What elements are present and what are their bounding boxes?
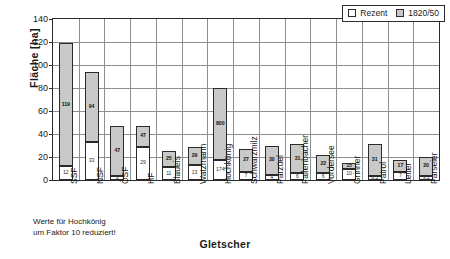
- plot-area: 0204060801001201401211933942472947112513…: [52, 18, 440, 181]
- plot-inner: 0204060801001201401211933942472947112513…: [53, 19, 439, 180]
- legend-item-historic: 1820/50: [396, 8, 439, 18]
- y-tick-label: 100: [14, 60, 53, 70]
- y-tick-mark: [49, 180, 53, 181]
- bar-group: 717: [388, 19, 414, 180]
- bar-segment-historic: 94: [85, 72, 99, 142]
- bar-value-label: 94: [86, 104, 98, 109]
- y-tick-label: 40: [14, 129, 53, 139]
- bar-group: 2947: [130, 19, 156, 180]
- bar-value-label: 119: [60, 102, 72, 107]
- y-tick-label: 140: [14, 14, 53, 24]
- bar-group: 247: [104, 19, 130, 180]
- bar-value-label: 800: [214, 121, 226, 126]
- bar-value-label: 47: [137, 134, 149, 139]
- y-tick-label: 0: [14, 175, 53, 185]
- y-tick-label: 20: [14, 152, 53, 162]
- chart-legend: Rezent 1820/50: [342, 5, 445, 22]
- legend-item-rezent: Rezent: [348, 8, 387, 18]
- bar-segment-historic: 47: [136, 126, 150, 147]
- legend-label-historic: 1820/50: [408, 8, 439, 18]
- bar-group: 3394: [79, 19, 105, 180]
- white-square-icon: [348, 9, 356, 17]
- bar-value-label: 47: [111, 148, 123, 153]
- x-axis-title: Gletscher: [0, 238, 450, 250]
- bar-value-label: 29: [137, 161, 149, 166]
- chart-note: Werte für Hochkönig um Faktor 10 reduzie…: [33, 216, 116, 238]
- y-tick-label: 80: [14, 83, 53, 93]
- y-tick-label: 120: [14, 37, 53, 47]
- legend-label-rezent: Rezent: [360, 8, 387, 18]
- bar-group: 12119: [53, 19, 79, 180]
- bar-group: 0,531: [362, 19, 388, 180]
- bar-value-label: 33: [86, 158, 98, 163]
- gray-square-icon: [396, 9, 404, 17]
- chart-root: Fläche [ha] 0204060801001201401211933942…: [0, 0, 450, 259]
- bar-segment-historic: 119: [59, 43, 73, 166]
- y-tick-label: 60: [14, 106, 53, 116]
